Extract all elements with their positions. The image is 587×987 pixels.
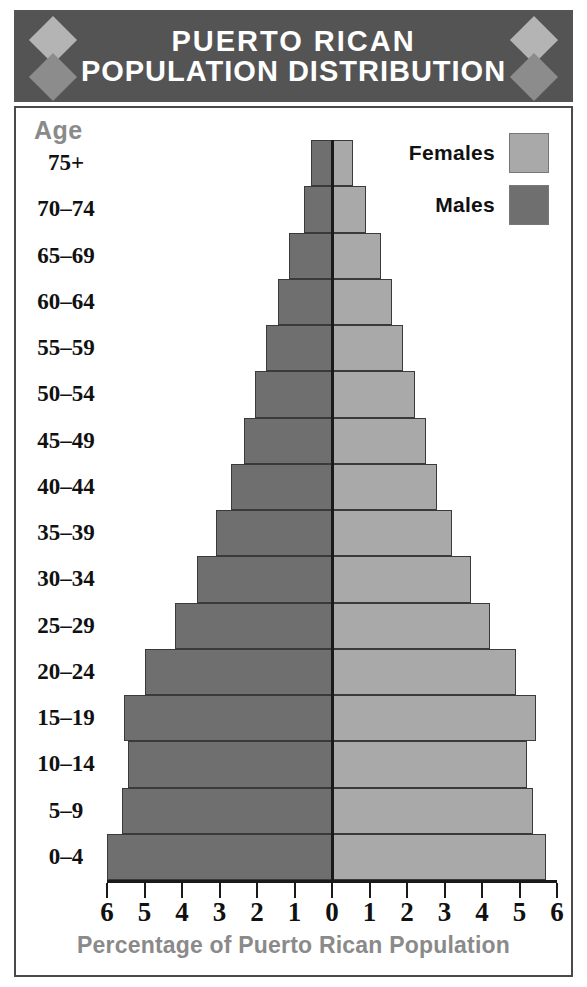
x-tick-5-1 [144, 883, 146, 898]
x-tick-1-5 [294, 883, 296, 898]
bar-male-70-74 [304, 186, 332, 232]
bar-male-45-49 [244, 418, 332, 464]
age-label-60-64: 60–64 [24, 289, 108, 315]
bar-male-25-29 [175, 603, 333, 649]
x-tick-label-12: 6 [542, 897, 572, 928]
bar-male-5-9 [122, 788, 332, 834]
x-tick-4-2 [181, 883, 183, 898]
age-label-15-19: 15–19 [24, 705, 108, 731]
x-tick-label-4: 2 [242, 897, 272, 928]
bar-male-20-24 [145, 649, 333, 695]
x-axis-title: Percentage of Puerto Rican Population [0, 932, 587, 959]
bar-male-15-19 [124, 695, 332, 741]
population-pyramid-poster: PUERTO RICAN POPULATION DISTRIBUTION Age… [0, 0, 587, 987]
bar-female-10-14 [332, 741, 527, 787]
x-tick-label-2: 4 [167, 897, 197, 928]
bar-female-25-29 [332, 603, 490, 649]
bar-female-70-74 [332, 186, 366, 232]
bar-female-30-34 [332, 556, 471, 602]
x-axis-tick-labels: 6543210123456 [107, 897, 557, 929]
bar-male-40-44 [231, 464, 332, 510]
bar-female-15-19 [332, 695, 536, 741]
x-tick-label-9: 3 [430, 897, 460, 928]
x-tick-6-12 [556, 883, 558, 898]
bar-female-75+ [332, 140, 353, 186]
x-tick-label-11: 5 [505, 897, 535, 928]
x-tick-5-11 [519, 883, 521, 898]
age-tick-labels: 75+70–7465–6960–6455–5950–5445–4940–4435… [24, 140, 108, 880]
x-tick-0-6 [331, 883, 333, 898]
bar-female-40-44 [332, 464, 437, 510]
bar-male-50-54 [255, 371, 332, 417]
age-label-75+: 75+ [24, 150, 108, 176]
center-axis-line [331, 140, 334, 880]
diamond-icon-bottom-right [510, 53, 558, 101]
x-axis-ticks [107, 883, 557, 898]
age-label-70-74: 70–74 [24, 196, 108, 222]
x-tick-label-6: 0 [317, 897, 347, 928]
poster-title: PUERTO RICAN POPULATION DISTRIBUTION [81, 26, 506, 87]
bar-female-60-64 [332, 279, 392, 325]
bar-male-55-59 [266, 325, 332, 371]
bar-male-75+ [311, 140, 332, 186]
title-line-2: POPULATION DISTRIBUTION [81, 56, 506, 86]
x-tick-3-9 [444, 883, 446, 898]
x-tick-label-10: 4 [467, 897, 497, 928]
age-label-55-59: 55–59 [24, 335, 108, 361]
bar-female-65-69 [332, 233, 381, 279]
bar-female-55-59 [332, 325, 403, 371]
bar-female-45-49 [332, 418, 426, 464]
x-tick-label-0: 6 [92, 897, 122, 928]
bar-male-65-69 [289, 233, 332, 279]
age-label-0-4: 0–4 [24, 844, 108, 870]
age-label-25-29: 25–29 [24, 613, 108, 639]
x-tick-2-8 [406, 883, 408, 898]
age-label-50-54: 50–54 [24, 381, 108, 407]
bar-male-0-4 [107, 834, 332, 880]
age-label-30-34: 30–34 [24, 566, 108, 592]
x-tick-label-7: 1 [355, 897, 385, 928]
age-label-35-39: 35–39 [24, 520, 108, 546]
bar-female-50-54 [332, 371, 415, 417]
x-tick-2-4 [256, 883, 258, 898]
plot-area [107, 140, 557, 880]
x-tick-4-10 [481, 883, 483, 898]
age-label-10-14: 10–14 [24, 751, 108, 777]
x-tick-label-5: 1 [280, 897, 310, 928]
age-label-20-24: 20–24 [24, 659, 108, 685]
header-banner: PUERTO RICAN POPULATION DISTRIBUTION [14, 10, 573, 102]
bar-female-35-39 [332, 510, 452, 556]
x-tick-label-1: 5 [130, 897, 160, 928]
age-label-45-49: 45–49 [24, 428, 108, 454]
x-tick-label-3: 3 [205, 897, 235, 928]
title-line-1: PUERTO RICAN [81, 26, 506, 56]
age-label-65-69: 65–69 [24, 243, 108, 269]
bar-female-0-4 [332, 834, 546, 880]
bar-male-60-64 [278, 279, 332, 325]
age-label-40-44: 40–44 [24, 474, 108, 500]
x-tick-label-8: 2 [392, 897, 422, 928]
bar-female-5-9 [332, 788, 533, 834]
bar-male-35-39 [216, 510, 332, 556]
diamond-icon-bottom-left [29, 53, 77, 101]
x-tick-3-3 [219, 883, 221, 898]
x-tick-6-0 [106, 883, 108, 898]
bar-male-10-14 [128, 741, 332, 787]
age-label-5-9: 5–9 [24, 798, 108, 824]
bar-male-30-34 [197, 556, 332, 602]
x-tick-1-7 [369, 883, 371, 898]
bar-female-20-24 [332, 649, 516, 695]
